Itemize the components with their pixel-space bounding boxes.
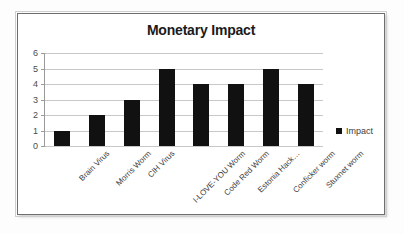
bar: [89, 115, 105, 146]
bar: [193, 84, 209, 146]
bar: [298, 84, 314, 146]
bar: [124, 100, 140, 147]
chart-legend: Impact: [336, 126, 373, 136]
legend-swatch-impact: [336, 128, 342, 134]
y-axis-tick-label: 3: [33, 95, 38, 105]
legend-label-impact: Impact: [346, 126, 373, 136]
x-axis-tick-labels: Brain VirusMorris WormCIH VirusI-LOVE-YO…: [45, 146, 323, 208]
bar: [54, 131, 70, 147]
bar-series-impact: [45, 53, 323, 146]
bar: [263, 69, 279, 147]
bar: [159, 69, 175, 147]
y-axis-tick-label: 0: [33, 141, 38, 151]
chart-title: Monetary Impact: [18, 22, 384, 38]
bar: [228, 84, 244, 146]
y-axis-tick-label: 1: [33, 126, 38, 136]
y-axis-tick-label: 2: [33, 110, 38, 120]
y-axis-tick-label: 5: [33, 64, 38, 74]
plot-area: 6543210: [45, 53, 323, 146]
y-axis-tick-label: 6: [33, 48, 38, 58]
chart-frame: Monetary Impact 6543210 Brain VirusMorri…: [17, 13, 385, 215]
x-axis-tick-label: Morris Worm: [114, 149, 153, 188]
x-axis-tick-label: Brain Virus: [78, 149, 112, 183]
y-axis-tick-label: 4: [33, 79, 38, 89]
